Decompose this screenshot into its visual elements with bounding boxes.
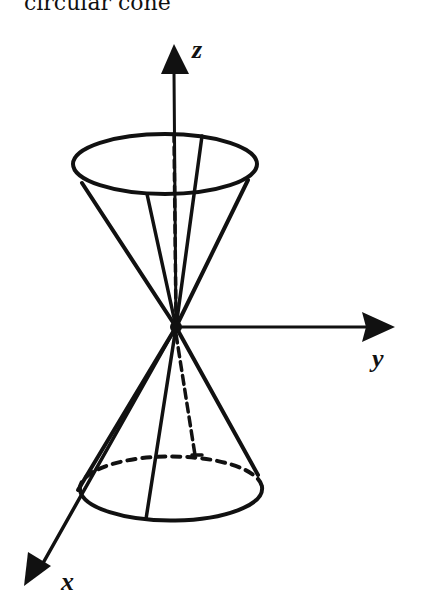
z-axis-label: z bbox=[191, 35, 203, 64]
y-axis-label: y bbox=[369, 344, 384, 373]
z-arrowhead-icon bbox=[161, 44, 189, 74]
lower-cone-left-edge bbox=[78, 327, 176, 490]
bottom-cone-rim-hidden bbox=[80, 456, 262, 490]
bottom-cone-rim-visible bbox=[80, 487, 262, 521]
y-arrowhead-icon bbox=[362, 312, 395, 342]
origin-vertex bbox=[170, 321, 182, 333]
top-cone-rim bbox=[73, 134, 257, 194]
lower-cone-right-edge bbox=[176, 327, 258, 475]
cone-diagram: z y x bbox=[0, 0, 428, 610]
upper-hidden-axis bbox=[174, 134, 176, 320]
x-axis-label: x bbox=[60, 567, 74, 596]
